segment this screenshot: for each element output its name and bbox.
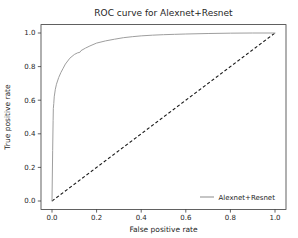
legend-entry-label: Alexnet+Resnet: [219, 194, 276, 202]
x-tick-label: 0.0: [46, 214, 57, 222]
roc-figure: ROC curve for Alexnet+Resnet 0.00.20.40.…: [0, 0, 298, 238]
x-tick-label: 0.6: [180, 214, 192, 222]
legend: Alexnet+Resnet: [200, 194, 275, 202]
x-tick-label: 0.4: [136, 214, 148, 222]
y-tick-label: 0.4: [24, 130, 36, 138]
roc-curve-line: [52, 33, 275, 201]
y-tick-label: 0.8: [24, 63, 35, 71]
y-tick-label: 1.0: [24, 29, 35, 37]
y-tick-label: 0.0: [24, 197, 35, 205]
plot-series: [52, 33, 275, 201]
chart-title: ROC curve for Alexnet+Resnet: [94, 8, 233, 18]
x-tick-label: 1.0: [269, 214, 280, 222]
y-tick-label: 0.2: [24, 164, 35, 172]
chance-diagonal-line: [52, 33, 275, 201]
y-tick-label: 0.6: [24, 97, 36, 105]
x-tick-label: 0.8: [225, 214, 236, 222]
x-axis-label: False positive rate: [129, 225, 198, 234]
x-tick-label: 0.2: [91, 214, 102, 222]
roc-chart: ROC curve for Alexnet+Resnet 0.00.20.40.…: [0, 0, 298, 238]
y-axis-label: True positive rate: [3, 84, 12, 151]
